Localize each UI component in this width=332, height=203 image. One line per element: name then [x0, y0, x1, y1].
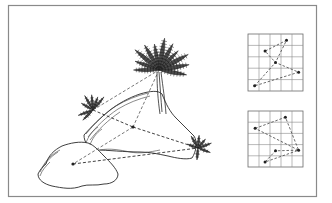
- grid-point: [274, 149, 277, 152]
- center-point: [131, 125, 134, 128]
- grid-point: [284, 116, 287, 119]
- grid-point: [253, 84, 256, 87]
- fern-illustration: [0, 0, 332, 203]
- grid-point: [274, 61, 277, 64]
- tall-fern: [134, 38, 190, 77]
- grid-point: [264, 160, 267, 163]
- grid-point: [285, 39, 288, 42]
- frond: [159, 70, 187, 75]
- grid-diagrams: [248, 34, 303, 167]
- grid-top: [248, 34, 303, 91]
- grid-point: [297, 71, 300, 74]
- grid-point: [297, 149, 300, 152]
- grid-bottom: [248, 111, 303, 167]
- left-fern: [78, 95, 104, 120]
- front-rock-point: [71, 162, 74, 165]
- grid-point: [264, 50, 267, 53]
- grid-point: [254, 127, 257, 130]
